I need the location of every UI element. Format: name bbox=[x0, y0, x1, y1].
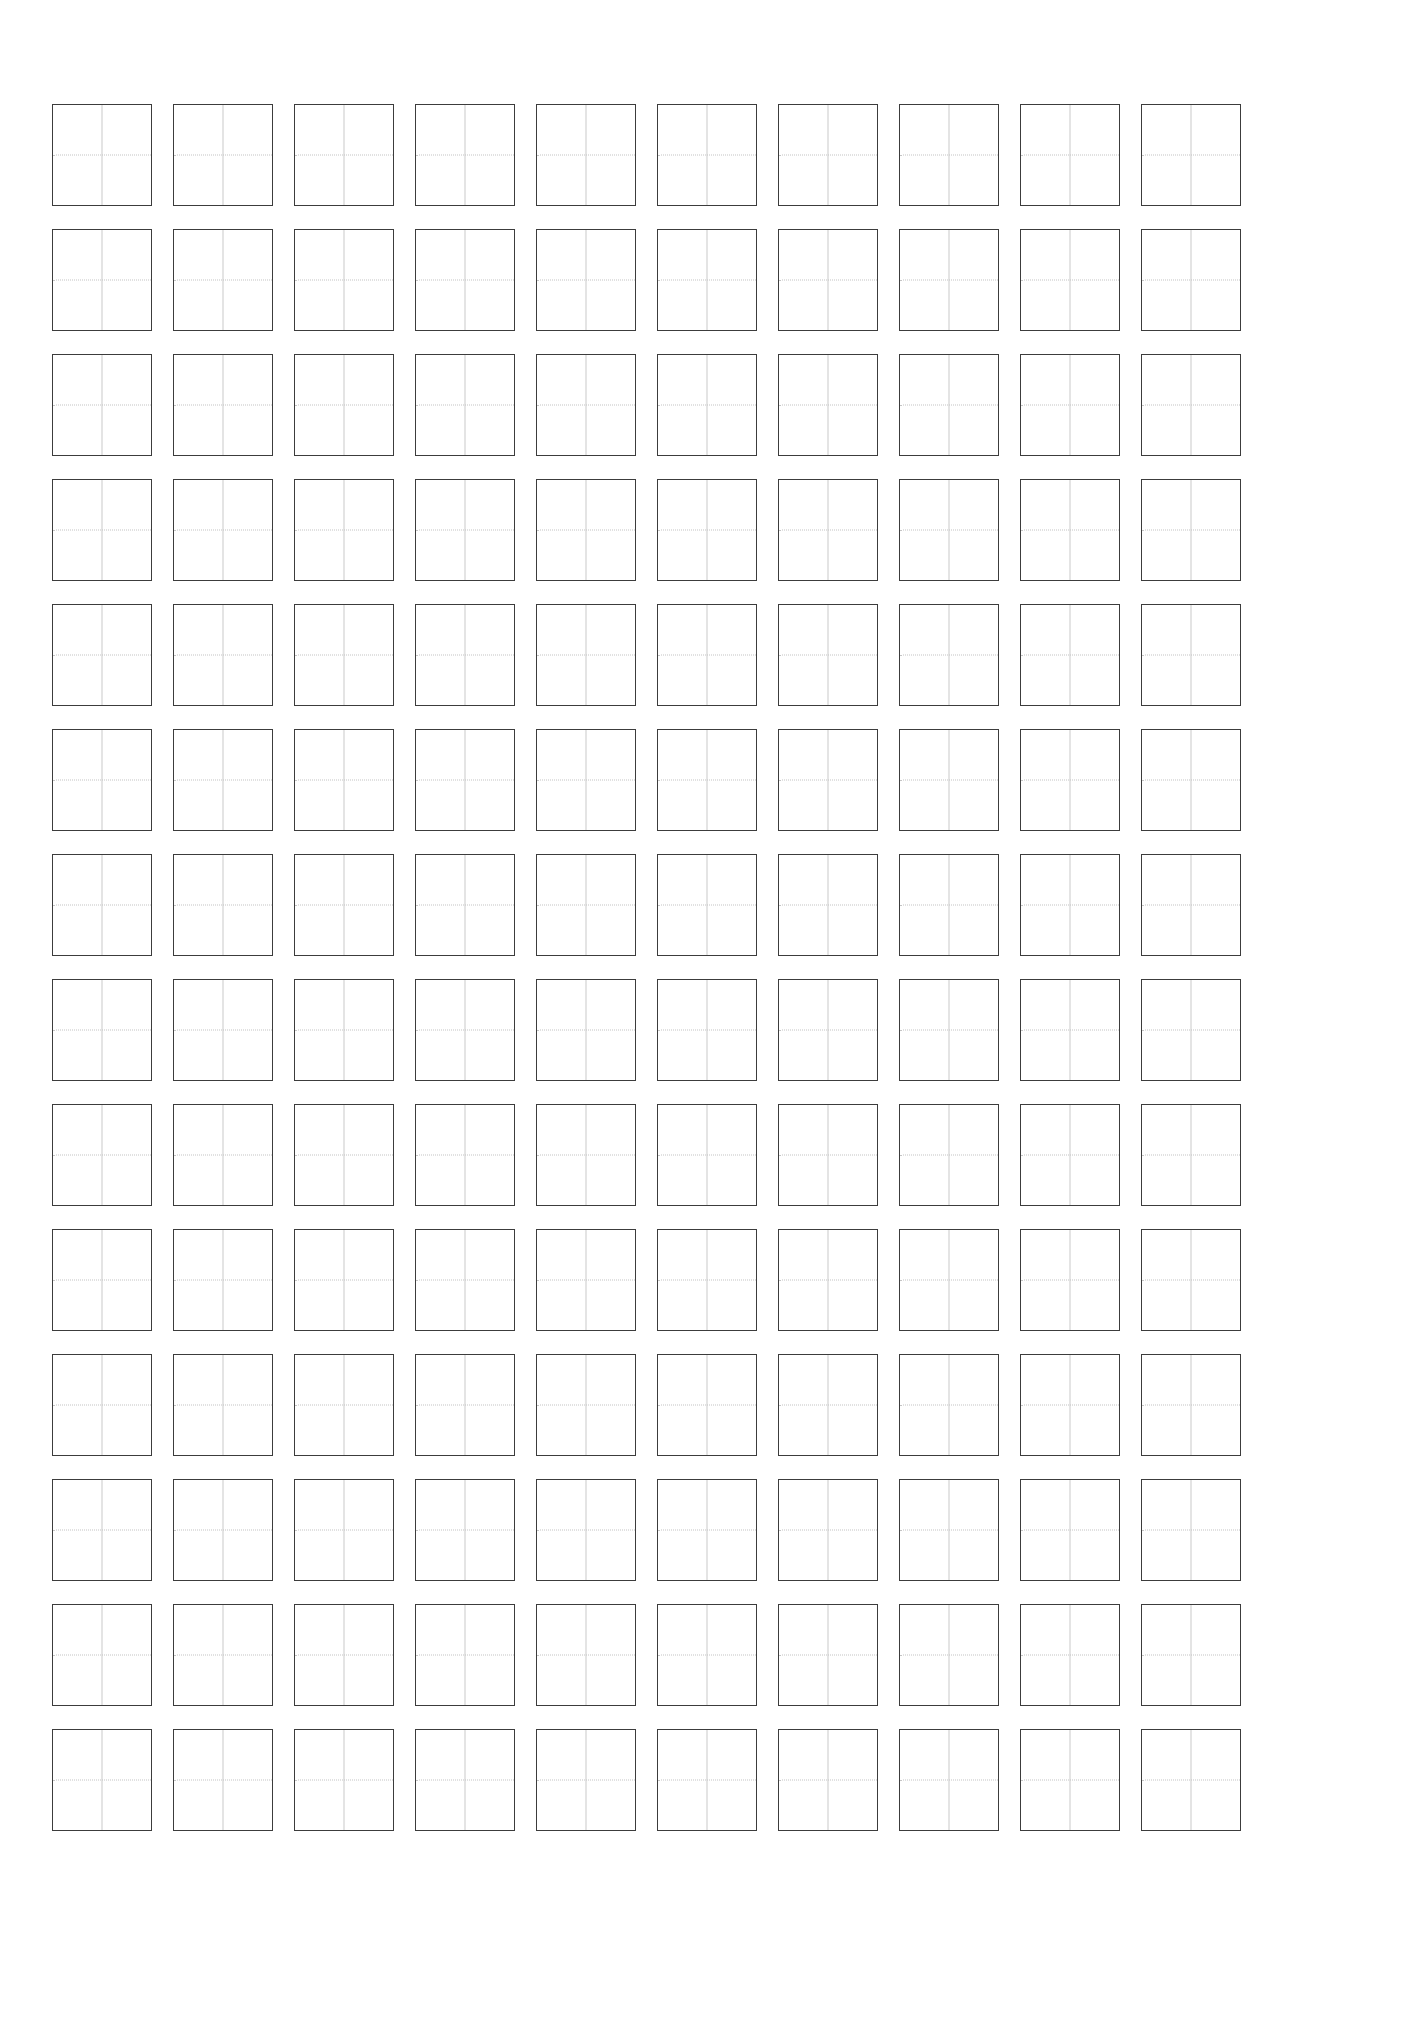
practice-cell[interactable] bbox=[899, 729, 999, 831]
practice-cell[interactable] bbox=[173, 1354, 273, 1456]
practice-cell[interactable] bbox=[294, 479, 394, 581]
practice-cell[interactable] bbox=[173, 229, 273, 331]
practice-cell[interactable] bbox=[536, 1604, 636, 1706]
practice-cell[interactable] bbox=[173, 729, 273, 831]
practice-cell[interactable] bbox=[294, 979, 394, 1081]
practice-cell[interactable] bbox=[1141, 1354, 1241, 1456]
practice-cell[interactable] bbox=[1020, 604, 1120, 706]
practice-cell[interactable] bbox=[657, 1604, 757, 1706]
practice-cell[interactable] bbox=[1141, 354, 1241, 456]
practice-cell[interactable] bbox=[657, 1729, 757, 1831]
practice-cell[interactable] bbox=[415, 979, 515, 1081]
practice-cell[interactable] bbox=[778, 1729, 878, 1831]
practice-cell[interactable] bbox=[536, 1354, 636, 1456]
practice-cell[interactable] bbox=[536, 1479, 636, 1581]
practice-cell[interactable] bbox=[173, 479, 273, 581]
practice-cell[interactable] bbox=[536, 479, 636, 581]
practice-cell[interactable] bbox=[1141, 979, 1241, 1081]
practice-cell[interactable] bbox=[1020, 1729, 1120, 1831]
practice-cell[interactable] bbox=[1141, 479, 1241, 581]
practice-cell[interactable] bbox=[657, 1229, 757, 1331]
practice-cell[interactable] bbox=[294, 729, 394, 831]
practice-cell[interactable] bbox=[657, 354, 757, 456]
practice-cell[interactable] bbox=[415, 854, 515, 956]
practice-cell[interactable] bbox=[52, 1729, 152, 1831]
practice-cell[interactable] bbox=[536, 1729, 636, 1831]
practice-cell[interactable] bbox=[1020, 854, 1120, 956]
practice-cell[interactable] bbox=[899, 979, 999, 1081]
practice-cell[interactable] bbox=[415, 1104, 515, 1206]
practice-cell[interactable] bbox=[415, 354, 515, 456]
practice-cell[interactable] bbox=[536, 104, 636, 206]
practice-cell[interactable] bbox=[536, 604, 636, 706]
practice-cell[interactable] bbox=[294, 1604, 394, 1706]
practice-cell[interactable] bbox=[899, 1479, 999, 1581]
practice-cell[interactable] bbox=[778, 1479, 878, 1581]
practice-cell[interactable] bbox=[899, 479, 999, 581]
practice-cell[interactable] bbox=[899, 354, 999, 456]
practice-cell[interactable] bbox=[415, 1729, 515, 1831]
practice-cell[interactable] bbox=[657, 1354, 757, 1456]
practice-cell[interactable] bbox=[415, 1479, 515, 1581]
practice-cell[interactable] bbox=[173, 1604, 273, 1706]
practice-cell[interactable] bbox=[173, 604, 273, 706]
practice-cell[interactable] bbox=[415, 479, 515, 581]
practice-cell[interactable] bbox=[899, 1604, 999, 1706]
practice-cell[interactable] bbox=[1020, 979, 1120, 1081]
practice-cell[interactable] bbox=[1141, 1479, 1241, 1581]
practice-cell[interactable] bbox=[294, 1104, 394, 1206]
practice-cell[interactable] bbox=[1141, 1229, 1241, 1331]
practice-cell[interactable] bbox=[657, 1479, 757, 1581]
practice-cell[interactable] bbox=[1141, 1604, 1241, 1706]
practice-cell[interactable] bbox=[657, 104, 757, 206]
practice-cell[interactable] bbox=[899, 1729, 999, 1831]
practice-cell[interactable] bbox=[536, 729, 636, 831]
practice-cell[interactable] bbox=[1020, 1104, 1120, 1206]
practice-cell[interactable] bbox=[173, 1729, 273, 1831]
practice-cell[interactable] bbox=[657, 604, 757, 706]
practice-cell[interactable] bbox=[778, 229, 878, 331]
practice-cell[interactable] bbox=[52, 979, 152, 1081]
practice-cell[interactable] bbox=[1141, 854, 1241, 956]
practice-cell[interactable] bbox=[415, 104, 515, 206]
practice-cell[interactable] bbox=[294, 104, 394, 206]
practice-cell[interactable] bbox=[778, 604, 878, 706]
practice-cell[interactable] bbox=[415, 604, 515, 706]
practice-cell[interactable] bbox=[899, 1104, 999, 1206]
practice-cell[interactable] bbox=[1141, 1104, 1241, 1206]
practice-cell[interactable] bbox=[1020, 729, 1120, 831]
practice-cell[interactable] bbox=[294, 1729, 394, 1831]
practice-cell[interactable] bbox=[657, 854, 757, 956]
practice-cell[interactable] bbox=[778, 104, 878, 206]
practice-cell[interactable] bbox=[778, 1354, 878, 1456]
practice-cell[interactable] bbox=[415, 229, 515, 331]
practice-cell[interactable] bbox=[1141, 604, 1241, 706]
practice-cell[interactable] bbox=[1020, 1354, 1120, 1456]
practice-cell[interactable] bbox=[778, 854, 878, 956]
practice-cell[interactable] bbox=[657, 729, 757, 831]
practice-cell[interactable] bbox=[1020, 479, 1120, 581]
practice-cell[interactable] bbox=[294, 354, 394, 456]
practice-cell[interactable] bbox=[173, 104, 273, 206]
practice-cell[interactable] bbox=[173, 854, 273, 956]
practice-cell[interactable] bbox=[173, 354, 273, 456]
practice-cell[interactable] bbox=[1020, 354, 1120, 456]
practice-cell[interactable] bbox=[778, 729, 878, 831]
practice-cell[interactable] bbox=[536, 354, 636, 456]
practice-cell[interactable] bbox=[536, 1104, 636, 1206]
practice-cell[interactable] bbox=[1020, 229, 1120, 331]
practice-cell[interactable] bbox=[415, 729, 515, 831]
practice-cell[interactable] bbox=[778, 1104, 878, 1206]
practice-cell[interactable] bbox=[52, 479, 152, 581]
practice-cell[interactable] bbox=[899, 1229, 999, 1331]
practice-cell[interactable] bbox=[52, 1229, 152, 1331]
practice-cell[interactable] bbox=[899, 104, 999, 206]
practice-cell[interactable] bbox=[294, 1354, 394, 1456]
practice-cell[interactable] bbox=[536, 1229, 636, 1331]
practice-cell[interactable] bbox=[899, 854, 999, 956]
practice-cell[interactable] bbox=[294, 854, 394, 956]
practice-cell[interactable] bbox=[657, 979, 757, 1081]
practice-cell[interactable] bbox=[173, 1104, 273, 1206]
practice-cell[interactable] bbox=[52, 1104, 152, 1206]
practice-cell[interactable] bbox=[1141, 1729, 1241, 1831]
